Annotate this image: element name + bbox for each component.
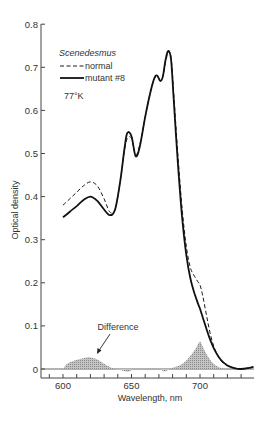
absorption-spectrum-chart: 00.10.20.30.40.50.60.70.8 600650700 Wave… xyxy=(0,0,269,421)
y-axis-title: Optical density xyxy=(10,180,20,240)
legend-mutant-label: mutant #8 xyxy=(85,73,125,83)
legend-normal-label: normal xyxy=(85,61,113,71)
y-tick-label: 0.4 xyxy=(25,191,38,202)
y-tick-label: 0.8 xyxy=(25,19,38,30)
y-tick-label: 0.2 xyxy=(25,277,38,288)
y-tick-label: 0.7 xyxy=(25,62,38,73)
y-tick-label: 0.1 xyxy=(25,320,38,331)
x-axis: 600650700 xyxy=(41,374,254,391)
y-tick-label: 0.3 xyxy=(25,234,38,245)
x-axis-ticks: 600650700 xyxy=(49,374,241,391)
mutant-series-line xyxy=(63,51,253,369)
arrowhead-icon xyxy=(97,348,102,354)
difference-area xyxy=(63,342,225,372)
legend-title: Scenedesmus xyxy=(59,48,117,58)
legend: Scenedesmus normal mutant #8 77°K xyxy=(59,48,125,101)
x-axis-title: Wavelength, nm xyxy=(118,393,183,403)
temperature-label: 77°K xyxy=(64,91,84,101)
difference-annotation: Difference xyxy=(97,322,138,354)
y-tick-label: 0 xyxy=(33,364,38,375)
y-tick-label: 0.5 xyxy=(25,148,38,159)
arrow-icon xyxy=(98,334,110,352)
difference-label: Difference xyxy=(98,322,139,332)
x-tick-label: 600 xyxy=(55,380,71,391)
y-axis: 00.10.20.30.40.50.60.70.8 xyxy=(25,19,45,378)
x-tick-label: 700 xyxy=(192,380,208,391)
y-axis-ticks: 00.10.20.30.40.50.60.70.8 xyxy=(25,19,45,375)
y-tick-label: 0.6 xyxy=(25,105,38,116)
normal-series-line xyxy=(63,51,253,369)
x-tick-label: 650 xyxy=(124,380,140,391)
